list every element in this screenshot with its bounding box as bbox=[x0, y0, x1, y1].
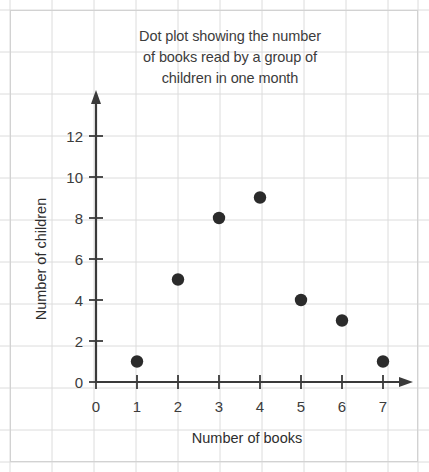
x-axis-arrowhead bbox=[399, 377, 413, 387]
dot-plot: 0 2 4 6 8 10 12 0 1 2 3 4 5 6 bbox=[0, 0, 429, 472]
x-axis-title: Number of books bbox=[192, 430, 302, 446]
data-point[interactable] bbox=[131, 355, 143, 367]
data-point[interactable] bbox=[377, 355, 389, 367]
x-tick-label-6: 6 bbox=[338, 398, 346, 415]
y-tick-label-4: 4 bbox=[75, 292, 83, 309]
y-tick-label-0: 0 bbox=[75, 374, 83, 391]
data-point[interactable] bbox=[295, 294, 307, 306]
y-axis-arrowhead bbox=[91, 90, 101, 104]
x-tick-label-4: 4 bbox=[256, 398, 264, 415]
x-tick-label-7: 7 bbox=[379, 398, 387, 415]
y-tick-label-8: 8 bbox=[75, 210, 83, 227]
y-tick-label-12: 12 bbox=[66, 128, 83, 145]
x-tick-label-1: 1 bbox=[133, 398, 141, 415]
y-axis-tick-labels: 0 2 4 6 8 10 12 bbox=[66, 128, 83, 391]
y-tick-label-10: 10 bbox=[66, 169, 83, 186]
data-point[interactable] bbox=[172, 273, 184, 285]
x-tick-label-2: 2 bbox=[174, 398, 182, 415]
y-tick-label-6: 6 bbox=[75, 251, 83, 268]
data-point[interactable] bbox=[213, 212, 225, 224]
x-tick-label-0: 0 bbox=[92, 398, 100, 415]
x-tick-label-3: 3 bbox=[215, 398, 223, 415]
y-tick-label-2: 2 bbox=[75, 333, 83, 350]
y-axis-title: Number of children bbox=[33, 198, 49, 321]
x-axis-tick-labels: 0 1 2 3 4 5 6 7 bbox=[92, 398, 387, 415]
data-point[interactable] bbox=[254, 191, 266, 203]
data-points bbox=[131, 191, 389, 367]
x-tick-label-5: 5 bbox=[297, 398, 305, 415]
data-point[interactable] bbox=[336, 314, 348, 326]
axes bbox=[91, 90, 413, 387]
chart-canvas: Dot plot showing the number of books rea… bbox=[0, 0, 429, 472]
